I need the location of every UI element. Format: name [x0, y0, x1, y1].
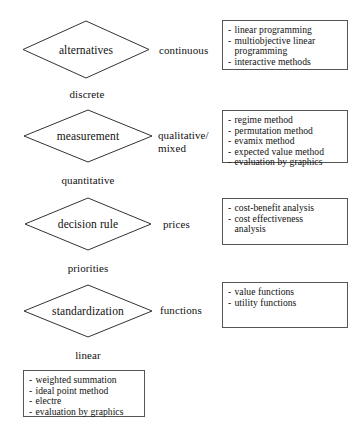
method-box-qualitative-mixed: -regime method-permutation method-evamix…	[222, 110, 348, 163]
method-item: -evaluation by graphics	[228, 157, 347, 168]
branch-label-quantitative: quantitative	[61, 174, 114, 186]
edge-label-qualitative-line1: qualitative/	[158, 129, 209, 142]
bullet-dash-icon: -	[228, 203, 235, 214]
method-item: -regime method	[228, 115, 347, 126]
branch-label-discrete: discrete	[69, 88, 104, 100]
method-box-prices: -cost-benefit analysis-cost effectivenes…	[222, 198, 348, 245]
edge-label-qualitative-mixed: qualitative/ mixed	[158, 129, 209, 154]
diamond-label-standardization: standardization	[52, 305, 124, 317]
method-list-continuous: -linear programming-multiobjective linea…	[223, 21, 347, 67]
branch-label-priorities: priorities	[68, 262, 109, 274]
method-item: -utility functions	[228, 298, 347, 309]
edge-label-prices: prices	[163, 218, 190, 231]
diamond-label-alternatives: alternatives	[59, 44, 113, 56]
diagram-canvas: alternatives measurement decision rule s…	[0, 0, 363, 438]
bullet-dash-icon: -	[228, 36, 235, 47]
method-box-continuous: -linear programming-multiobjective linea…	[222, 20, 348, 70]
method-item: analysis	[228, 224, 347, 235]
edge-label-qualitative-line2: mixed	[158, 142, 209, 155]
bullet-dash-icon: -	[228, 287, 235, 298]
diamond-label-decision-rule: decision rule	[58, 218, 118, 230]
bullet-dash-icon: -	[228, 57, 235, 68]
bullet-dash-icon: -	[228, 157, 235, 168]
bullet-dash-icon: -	[228, 25, 235, 36]
method-list-qualitative-mixed: -regime method-permutation method-evamix…	[223, 111, 347, 168]
bullet-dash-icon: -	[228, 298, 235, 309]
method-item: -linear programming	[228, 25, 347, 36]
method-item: -interactive methods	[228, 57, 347, 68]
edge-label-functions: functions	[160, 304, 202, 317]
method-item: -weighted summation	[29, 375, 144, 386]
method-list-linear: -weighted summation-ideal point method-e…	[24, 371, 144, 417]
bullet-dash-icon: -	[228, 214, 235, 225]
method-item: -evaluation by graphics	[29, 407, 144, 418]
bullet-dash-icon: -	[29, 375, 36, 386]
method-list-functions: -value functions-utility functions	[223, 283, 347, 308]
method-item: -value functions	[228, 287, 347, 298]
diamond-label-measurement: measurement	[57, 130, 119, 142]
bullet-dash-icon: -	[228, 115, 235, 126]
edge-label-continuous: continuous	[159, 44, 208, 57]
method-box-functions: -value functions-utility functions	[222, 282, 348, 328]
method-box-linear: -weighted summation-ideal point method-e…	[23, 370, 145, 417]
method-item: -cost-benefit analysis	[228, 203, 347, 214]
method-list-prices: -cost-benefit analysis-cost effectivenes…	[223, 199, 347, 235]
bullet-dash-icon: -	[29, 407, 36, 418]
branch-label-linear: linear	[75, 349, 101, 361]
